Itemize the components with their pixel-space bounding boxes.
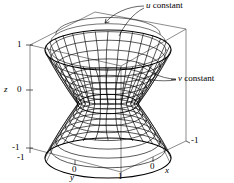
y-axis-label: y: [70, 173, 74, 182]
annotation-u-text: constant: [151, 0, 183, 10]
z-tick-minus-1: -1: [12, 143, 20, 152]
hyperboloid-mesh: [45, 17, 171, 178]
y-tick-minus-1: -1: [17, 153, 25, 162]
z-tick-1: 1: [17, 40, 22, 49]
axis-ticks: [26, 45, 190, 177]
y-tick-1: 1: [118, 172, 123, 181]
u-constant-meridians: [45, 32, 171, 162]
z-axis-label: z: [4, 85, 8, 94]
annotation-v-text: constant: [182, 73, 214, 83]
figure-hyperboloid: u constant v constant 1 0 -1 z -1 0 1 y …: [0, 0, 234, 183]
z-tick-0: 0: [17, 85, 22, 94]
wireframe-canvas: [0, 0, 234, 183]
x-tick-0: 0: [150, 162, 155, 171]
x-axis-label: x: [165, 166, 169, 175]
x-tick-minus-1: -1: [191, 136, 199, 145]
annotation-v-constant: v constant: [178, 74, 214, 83]
annotation-u-constant: u constant: [146, 1, 183, 10]
